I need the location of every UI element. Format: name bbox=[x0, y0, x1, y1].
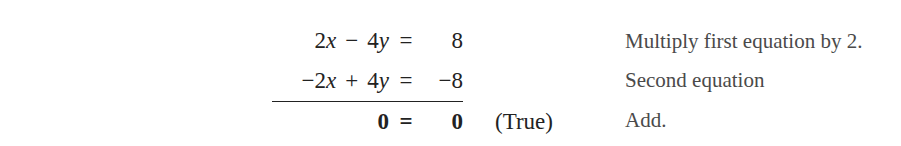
coefficient: 2 bbox=[315, 28, 327, 53]
equation-lhs: −2x+4y bbox=[0, 66, 389, 96]
equals-sign: = bbox=[396, 107, 416, 137]
variable: x bbox=[326, 28, 336, 53]
operator: + bbox=[336, 68, 367, 93]
step-comment-3: Add. bbox=[625, 106, 666, 134]
equation-lhs: 2x−4y bbox=[0, 26, 389, 56]
variable: y bbox=[379, 28, 389, 53]
operator: − bbox=[336, 28, 367, 53]
coefficient: −2 bbox=[302, 68, 326, 93]
equation-row-1: 2x−4y = 8 bbox=[0, 26, 600, 56]
equation-lhs: 0 bbox=[0, 107, 389, 137]
equals-sign: = bbox=[396, 66, 416, 96]
equation-rhs: 0 bbox=[420, 107, 463, 137]
equation-rhs: −8 bbox=[420, 66, 463, 96]
variable: x bbox=[326, 68, 336, 93]
equation-system: 2x−4y = 8 −2x+4y = −8 0 = 0 (True) bbox=[0, 0, 600, 146]
equals-sign: = bbox=[396, 26, 416, 56]
coefficient: 4 bbox=[367, 68, 379, 93]
equation-row-2: −2x+4y = −8 bbox=[0, 66, 600, 96]
true-note: (True) bbox=[495, 107, 553, 137]
step-comment-2: Second equation bbox=[625, 66, 764, 94]
equation-row-sum: 0 = 0 (True) bbox=[0, 107, 600, 137]
variable: y bbox=[379, 68, 389, 93]
sum-rule-line bbox=[272, 101, 463, 102]
equation-rhs: 8 bbox=[420, 26, 463, 56]
step-comment-1: Multiply first equation by 2. bbox=[625, 27, 862, 55]
coefficient: 4 bbox=[367, 28, 379, 53]
